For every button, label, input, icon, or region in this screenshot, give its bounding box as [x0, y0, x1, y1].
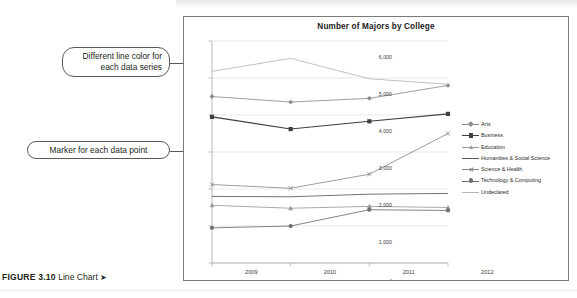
data-point-marker [367, 208, 371, 212]
y-axis-tick-label: 5,000 [368, 91, 392, 97]
data-point-marker [367, 119, 371, 123]
series-humanities-social-science [212, 193, 448, 196]
data-point-marker [288, 100, 293, 105]
chart-legend: ArtsBusinessEducationHumanities & Social… [462, 119, 566, 198]
series-line [212, 58, 448, 84]
y-axis-tick-label: 3,000 [368, 165, 392, 171]
legend-item[interactable]: Undeclared [462, 187, 566, 198]
series-line [212, 134, 448, 189]
legend-label: Education [481, 145, 505, 150]
legend-label: Technology & Computing [481, 178, 541, 183]
legend-key-x-icon [462, 165, 479, 174]
y-axis-tick-label: 1,000 [368, 239, 392, 245]
legend-marker [469, 145, 473, 149]
legend-marker [468, 122, 473, 127]
legend-marker [469, 167, 473, 171]
series-technology-computing [210, 208, 450, 230]
figure-caption: FIGURE 3.10 Line Chart ➤ [2, 272, 107, 282]
y-axis-tick-label: 6,000 [368, 54, 392, 60]
data-point-marker [446, 83, 451, 88]
data-point-marker [446, 112, 450, 116]
legend-item[interactable]: Education [462, 142, 566, 153]
series-line [212, 85, 448, 102]
figure-label: Line Chart [58, 272, 98, 282]
legend-key-circle-icon [462, 177, 479, 186]
data-point-marker [210, 115, 214, 119]
series-undeclared [212, 58, 448, 84]
data-point-marker [446, 131, 450, 135]
data-point-marker [446, 208, 450, 212]
legend-marker [469, 133, 473, 137]
page-scan-artifact-bottom [0, 289, 577, 293]
arrow-icon: ➤ [100, 273, 107, 282]
legend-marker [469, 178, 473, 182]
series-science-health [210, 131, 450, 190]
data-point-marker [210, 226, 214, 230]
x-axis-tick-label: 2011 [389, 269, 429, 275]
legend-item[interactable]: Arts [462, 119, 566, 130]
page-scan-artifact-top [176, 0, 577, 8]
legend-key-diamond-icon [462, 120, 479, 129]
legend-label: Undeclared [481, 190, 509, 195]
x-axis-tick-label: 2009 [231, 269, 271, 275]
legend-label: Business [481, 133, 503, 138]
series-education [210, 203, 451, 210]
data-point-marker [210, 94, 215, 99]
legend-item[interactable]: Humanities & Social Science [462, 153, 566, 164]
y-axis-tick-label: 4,000 [368, 128, 392, 134]
chart-title: Number of Majors by College [184, 22, 568, 31]
x-axis-tick-label: 2010 [310, 269, 350, 275]
legend-label: Science & Health [481, 167, 522, 172]
legend-key-none-icon [462, 188, 479, 197]
legend-label: Arts [481, 122, 491, 127]
legend-item[interactable]: Technology & Computing [462, 175, 566, 186]
plot-canvas [212, 41, 448, 263]
legend-key-none-icon [462, 154, 479, 163]
series-arts [210, 83, 451, 104]
series-line [212, 193, 448, 196]
legend-item[interactable]: Business [462, 130, 566, 141]
y-axis-tick-label: 2,000 [368, 202, 392, 208]
legend-key-square-icon [462, 131, 479, 140]
data-point-marker [289, 224, 293, 228]
figure-number: FIGURE 3.10 [2, 272, 56, 282]
legend-key-triangle-icon [462, 143, 479, 152]
series-line [212, 114, 448, 129]
legend-label: Humanities & Social Science [481, 156, 550, 161]
data-point-marker [289, 127, 293, 131]
plot-area [212, 41, 448, 263]
chart-container: Number of Majors by College -1,0002,0003… [183, 16, 569, 281]
x-axis-tick-label: 2012 [467, 269, 507, 275]
legend-item[interactable]: Science & Health [462, 164, 566, 175]
annotation-marker: Marker for each data point [27, 141, 170, 159]
series-line [212, 210, 448, 228]
series-business [210, 112, 450, 131]
y-axis-tick-label: - [368, 276, 392, 282]
annotation-line-color: Different line color for each data serie… [62, 47, 170, 77]
series-line [212, 205, 448, 208]
